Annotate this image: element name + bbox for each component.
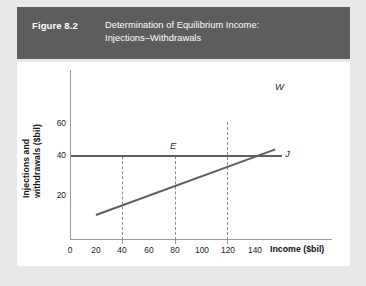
figure-container: Figure 8.2 Determination of Equilibrium … [0, 0, 366, 286]
y-tick-60: 60 [45, 118, 66, 129]
guide-dashed-120 [227, 122, 228, 240]
x-tick-label-20: 20 [91, 245, 100, 255]
x-axis-label: Income ($bil) [270, 244, 324, 254]
x-tick-label-80: 80 [170, 245, 179, 255]
y-axis-label-line-2: withdrawals ($bil) [32, 124, 42, 198]
x-tickmark-80 [175, 240, 176, 244]
y-tick-label-60: 60 [57, 118, 66, 128]
x-tick-label-40: 40 [117, 245, 126, 255]
x-tick-label-100: 100 [195, 245, 209, 255]
chart-panel: Injections and withdrawals ($bil) 60 40 … [17, 62, 350, 266]
figure-title-line-2: Injections–Withdrawals [105, 32, 340, 45]
x-tickmark-120 [227, 240, 228, 244]
guide-dashed-80 [175, 156, 176, 240]
annotation-label-E: E [170, 140, 176, 151]
figure-title: Determination of Equilibrium Income: Inj… [105, 19, 340, 44]
figure-header-band: Figure 8.2 Determination of Equilibrium … [17, 7, 350, 59]
figure-number: Figure 8.2 [32, 20, 78, 31]
y-axis-label-line-1: Injections and [21, 139, 31, 198]
x-tick-label-140: 140 [248, 245, 262, 255]
y-tick-20: 20 [45, 190, 66, 201]
curve-label-W: W [275, 81, 284, 92]
y-tick-40: 40 [45, 150, 66, 161]
y-tick-label-20: 20 [57, 190, 66, 200]
x-tick-label-120: 120 [221, 245, 235, 255]
x-axis-line [70, 239, 332, 240]
x-tickmark-40 [122, 240, 123, 244]
x-tick-label-0: 0 [68, 245, 73, 255]
y-axis-label: Injections and withdrawals ($bil) [21, 68, 55, 198]
guide-dashed-40 [122, 156, 123, 240]
y-tick-label-40: 40 [57, 150, 66, 160]
figure-title-line-1: Determination of Equilibrium Income: [105, 19, 340, 32]
x-tick-label-60: 60 [144, 245, 153, 255]
curve-label-J: J [285, 148, 290, 159]
